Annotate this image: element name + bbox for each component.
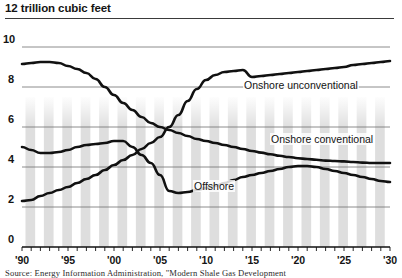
x-tick-label: '30	[376, 254, 402, 266]
y-tick-label: 4	[8, 153, 14, 165]
x-tick-label: '25	[330, 254, 358, 266]
series-label: Onshore unconventional	[243, 79, 359, 91]
series-label: Offshore	[193, 180, 235, 192]
x-tick-label: '05	[146, 254, 174, 266]
y-tick-label: 0	[8, 233, 14, 245]
x-tick-label: '20	[284, 254, 312, 266]
x-tick-label: '10	[192, 254, 220, 266]
y-tick-label: 8	[8, 73, 14, 85]
series-label: Onshore conventional	[270, 133, 374, 145]
y-tick-label: 10	[3, 33, 15, 45]
x-tick-label: '95	[54, 254, 82, 266]
x-tick-label: '15	[238, 254, 266, 266]
source-note: Source: Energy Information Administratio…	[5, 268, 397, 278]
y-tick-label: 6	[8, 113, 14, 125]
x-axis-ticks	[22, 247, 390, 251]
x-tick-label: '00	[100, 254, 128, 266]
x-tick-label: '90	[8, 254, 36, 266]
y-tick-label: 2	[8, 193, 14, 205]
